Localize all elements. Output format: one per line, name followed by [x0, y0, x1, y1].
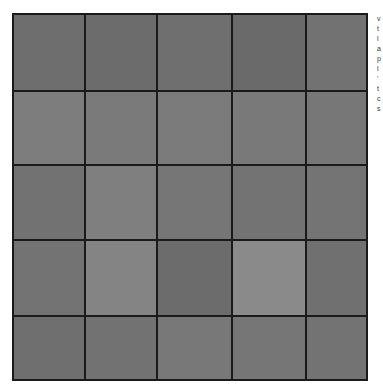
grid-cell-r4-c3	[158, 241, 231, 315]
side-text-fragment: p	[377, 54, 383, 64]
grid-cell-r5-c5	[307, 317, 366, 379]
side-text-fragment: '	[377, 74, 383, 84]
grid-cell-r2-c3	[158, 92, 231, 164]
cropped-side-text: vtlapl'tcs	[377, 14, 383, 114]
grid-cell-r2-c1	[14, 92, 84, 164]
side-text-fragment: v	[377, 14, 383, 24]
grid-cell-r3-c2	[86, 166, 156, 239]
side-text-fragment: l	[377, 34, 383, 44]
grid-cell-r5-c3	[158, 317, 231, 379]
grid-cell-r5-c1	[14, 317, 84, 379]
grid-cell-r2-c2	[86, 92, 156, 164]
grid-cell-r1-c5	[307, 15, 366, 90]
grid-cell-r3-c5	[307, 166, 366, 239]
grid-cell-r3-c1	[14, 166, 84, 239]
grid-cell-r1-c2	[86, 15, 156, 90]
grid-cell-r2-c4	[233, 92, 305, 164]
side-text-fragment: t	[377, 24, 383, 34]
grid-cell-r1-c1	[14, 15, 84, 90]
grid-cell-r3-c4	[233, 166, 305, 239]
grid-cell-r2-c5	[307, 92, 366, 164]
grid-cell-r3-c3	[158, 166, 231, 239]
grid-cell-r1-c4	[233, 15, 305, 90]
side-text-fragment: t	[377, 84, 383, 94]
side-text-fragment: l	[377, 64, 383, 74]
grid-cell-r4-c1	[14, 241, 84, 315]
grid-cell-r4-c4	[233, 241, 305, 315]
grid-cell-r4-c5	[307, 241, 366, 315]
gray-swatch-grid	[12, 13, 368, 381]
grid-cell-r1-c3	[158, 15, 231, 90]
side-text-fragment: s	[377, 104, 383, 114]
grid-cell-r4-c2	[86, 241, 156, 315]
side-text-fragment: a	[377, 44, 383, 54]
side-text-fragment: c	[377, 94, 383, 104]
grid-cell-r5-c4	[233, 317, 305, 379]
grid-cell-r5-c2	[86, 317, 156, 379]
